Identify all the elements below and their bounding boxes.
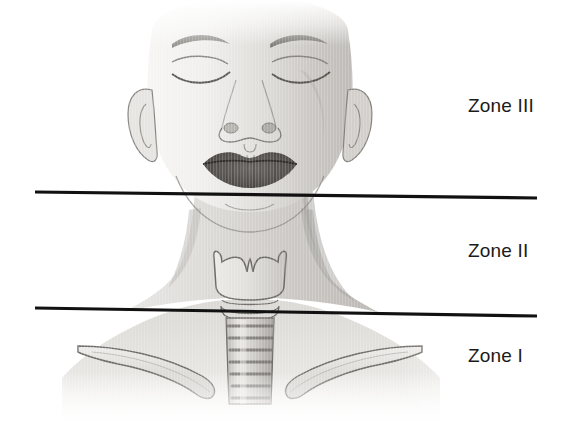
zone-ii-label: Zone II bbox=[468, 240, 529, 262]
illustration-page: Zone III Zone II Zone I bbox=[0, 0, 563, 423]
zone-i-label: Zone I bbox=[468, 345, 523, 367]
left-fade bbox=[0, 0, 70, 423]
zone-iii-label: Zone III bbox=[468, 95, 534, 117]
